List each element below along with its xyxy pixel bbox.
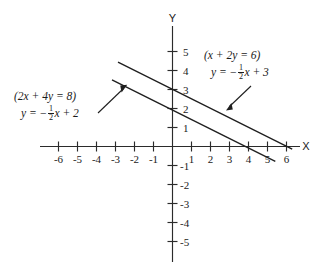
graph-canvas: -6 -5 -4 -3 -2 -1 1 2 3 4 5 6 X xyxy=(0,0,328,268)
y-tick-label--5: -5 xyxy=(180,236,190,248)
y-tick-label-5: 5 xyxy=(183,46,189,58)
y-axis-name: Y xyxy=(169,12,177,24)
x-tick-label--2: -2 xyxy=(130,153,139,165)
x-tick-label--5: -5 xyxy=(73,153,83,165)
coordinate-graph-figure: -6 -5 -4 -3 -2 -1 1 2 3 4 5 6 X xyxy=(0,0,328,268)
x-tick-label--3: -3 xyxy=(111,153,121,165)
x-tick-label--6: -6 xyxy=(54,153,64,165)
y-tick-label-1: 1 xyxy=(183,122,189,134)
equation-label-upper-line: (x + 2y = 6) y = −12x + 3 xyxy=(204,47,269,81)
equation-slope-intercept-upper: y = −12x + 3 xyxy=(204,64,269,82)
x-axis-name: X xyxy=(302,140,310,152)
x-tick-label-3: 3 xyxy=(227,153,233,165)
x-tick-label-2: 2 xyxy=(208,153,214,165)
equation-label-lower-line: (2x + 4y = 8) y = −12x + 2 xyxy=(14,88,79,122)
y-tick-label--1: -1 xyxy=(180,160,189,172)
y-axis: 5 4 3 2 1 -1 -2 -3 -4 -5 Y xyxy=(168,12,190,262)
y-tick-label--3: -3 xyxy=(180,198,190,210)
x-tick-label-6: 6 xyxy=(284,153,290,165)
x-tick-label-4: 4 xyxy=(246,153,252,165)
leader-arrow-lower-line xyxy=(98,85,127,113)
equation-slope-intercept-lower: y = −12x + 2 xyxy=(14,105,79,123)
y-tick-label--2: -2 xyxy=(180,179,189,191)
leader-line-lower xyxy=(98,89,124,114)
leader-arrow-upper-line xyxy=(226,86,251,111)
x-tick-label-1: 1 xyxy=(189,153,195,165)
leader-line-upper xyxy=(230,86,252,107)
y-tick-label-3: 3 xyxy=(183,84,189,96)
y-tick-label-4: 4 xyxy=(183,65,189,77)
x-tick-label--1: -1 xyxy=(149,153,158,165)
line-2x-plus-4y-equals-8 xyxy=(112,80,275,162)
y-tick-label-2: 2 xyxy=(183,103,189,115)
x-axis: -6 -5 -4 -3 -2 -1 1 2 3 4 5 6 X xyxy=(40,140,310,165)
equation-standard-form-upper: (x + 2y = 6) xyxy=(204,47,269,64)
x-tick-label--4: -4 xyxy=(92,153,102,165)
y-tick-label--4: -4 xyxy=(180,217,190,229)
equation-standard-form-lower: (2x + 4y = 8) xyxy=(14,88,79,105)
